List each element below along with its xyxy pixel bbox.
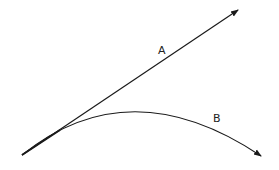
path-b: B [22,112,261,156]
origin-stroke [22,130,60,155]
curved-arrow-b [22,112,261,156]
label-b: B [213,112,221,125]
diagram-canvas: A B [0,0,279,170]
label-a: A [158,44,166,57]
